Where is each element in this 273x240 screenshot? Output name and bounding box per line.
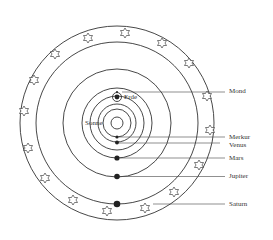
sun-ring — [111, 117, 123, 129]
label-jupiter: Jupiter — [229, 173, 248, 180]
label-merkur: Merkur — [229, 134, 250, 141]
saturn-orbit — [36, 42, 198, 204]
star-icon — [203, 91, 212, 101]
star-icon — [41, 173, 50, 183]
saturn-dot — [114, 201, 121, 208]
label-saturn: Saturn — [229, 201, 247, 208]
label-sonne: Sonne — [85, 120, 103, 127]
earth-dot — [115, 95, 120, 100]
star-icon — [30, 75, 39, 85]
moon-dot — [116, 91, 118, 93]
star-icon — [84, 33, 93, 43]
star-icon — [170, 187, 179, 197]
outer-star-sphere — [20, 26, 214, 220]
star-icon — [69, 195, 78, 205]
star-icon — [24, 143, 33, 153]
star-icon — [141, 203, 150, 213]
fixed-stars — [20, 28, 215, 216]
star-icon — [185, 58, 194, 68]
jupiter-orbit — [63, 69, 171, 177]
jupiter-dot — [114, 174, 120, 180]
star-icon — [121, 28, 130, 38]
venus-dot — [115, 141, 119, 145]
star-icon — [195, 160, 204, 170]
star-icon — [51, 49, 60, 59]
star-icon — [158, 38, 167, 48]
label-erde: Erde — [124, 94, 137, 101]
label-mond: Mond — [229, 88, 246, 95]
mercury-dot — [115, 135, 118, 138]
label-mars: Mars — [229, 155, 243, 162]
mars-dot — [114, 155, 119, 160]
star-icon — [103, 206, 112, 216]
label-venus: Venus — [229, 142, 246, 149]
mercury-orbit — [103, 109, 131, 137]
